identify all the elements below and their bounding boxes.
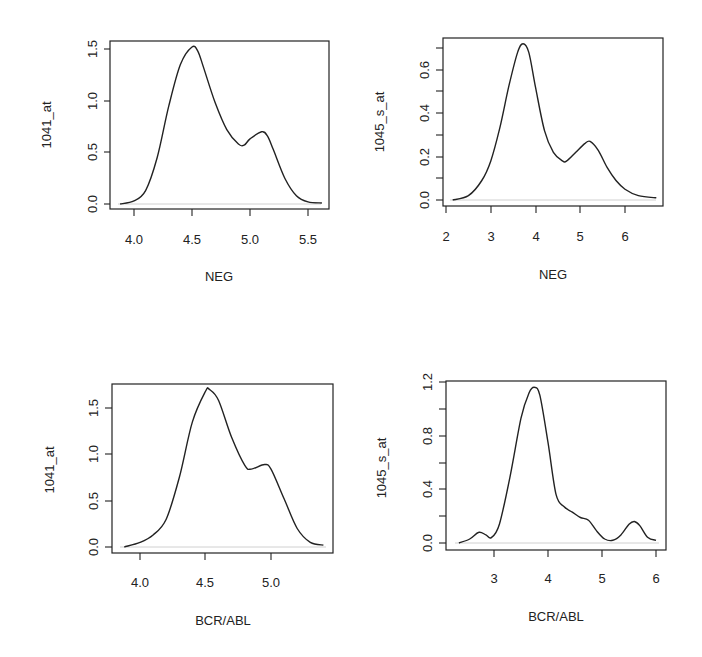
x-tick-label: 5	[576, 229, 583, 244]
x-axis-label: NEG	[539, 267, 567, 282]
x-tick-label: 4	[532, 229, 539, 244]
x-axis-label: NEG	[205, 269, 233, 284]
y-axis-label: 1045_s_at	[374, 437, 389, 498]
y-tick-label: 0.4	[417, 104, 432, 122]
y-axis: 0.0 0.4 0.8 1.2	[420, 373, 446, 552]
x-axis-label: BCR/ABL	[528, 609, 584, 624]
y-tick-label: 1.2	[420, 373, 435, 391]
y-tick-label: 0.5	[86, 492, 101, 510]
x-tick-label: 2	[442, 229, 449, 244]
x-tick-label: 5	[598, 571, 605, 586]
y-tick-label: 1.0	[85, 92, 100, 110]
x-axis: 4.0 4.5 5.0 5.5	[125, 209, 317, 247]
y-axis-label: 1041_at	[39, 101, 54, 148]
x-tick-label: 6	[652, 571, 659, 586]
x-tick-label: 5.0	[241, 232, 259, 247]
y-tick-label: 0.5	[85, 143, 100, 161]
plot-frame	[110, 41, 329, 209]
y-tick-label: 1.5	[86, 399, 101, 417]
y-tick-label: 1.0	[86, 445, 101, 463]
y-tick-label: 0.4	[420, 480, 435, 498]
panel-neg-1041: 0.0 0.5 1.0 1.5 4.0 4.5 5.0 5.5 NEG 1041…	[39, 40, 329, 284]
y-tick-label: 0.2	[417, 148, 432, 166]
y-tick-label: 0.8	[420, 427, 435, 445]
y-axis: 0.0 0.2 0.4 0.6	[417, 48, 443, 209]
panel-bcrabl-1041: 0.0 0.5 1.0 1.5 4.0 4.5 5.0 BCR/ABL 1041…	[42, 384, 333, 628]
y-tick-label: 0.6	[417, 61, 432, 79]
y-axis: 0.0 0.5 1.0 1.5	[85, 40, 110, 213]
y-tick-label: 0.0	[86, 538, 101, 556]
x-tick-label: 4	[544, 571, 551, 586]
y-tick-label: 1.5	[85, 40, 100, 58]
x-tick-label: 4.5	[196, 575, 214, 590]
y-axis: 0.0 0.5 1.0 1.5	[86, 399, 112, 556]
panel-neg-1045: 0.0 0.2 0.4 0.6 2 3 4 5 6 NEG 1045_s_at	[372, 38, 663, 282]
x-tick-label: 5.0	[262, 575, 280, 590]
density-curve	[459, 387, 656, 543]
density-plot-grid: 0.0 0.5 1.0 1.5 4.0 4.5 5.0 5.5 NEG 1041…	[0, 0, 702, 657]
density-curve	[453, 44, 657, 200]
x-tick-label: 4.0	[125, 232, 143, 247]
y-axis-label: 1045_s_at	[372, 91, 387, 152]
y-axis-label: 1041_at	[42, 446, 57, 493]
x-tick-label: 4.5	[183, 232, 201, 247]
x-axis: 4.0 4.5 5.0	[131, 553, 280, 590]
x-tick-label: 3	[490, 571, 497, 586]
x-tick-label: 6	[621, 229, 628, 244]
x-tick-label: 5.5	[299, 232, 317, 247]
density-curve	[120, 46, 322, 204]
plot-frame	[446, 381, 666, 550]
y-tick-label: 0.0	[85, 195, 100, 213]
x-axis-label: BCR/ABL	[195, 613, 251, 628]
y-tick-label: 0.0	[420, 534, 435, 552]
x-tick-label: 3	[487, 229, 494, 244]
y-tick-label: 0.0	[417, 191, 432, 209]
x-axis: 3 4 5 6	[490, 550, 659, 586]
x-axis: 2 3 4 5 6	[442, 206, 628, 244]
plot-frame	[443, 38, 663, 206]
x-tick-label: 4.0	[131, 575, 149, 590]
density-curve	[124, 388, 323, 547]
panel-bcrabl-1045: 0.0 0.4 0.8 1.2 3 4 5 6 BCR/ABL 1045_s_a…	[374, 373, 666, 624]
